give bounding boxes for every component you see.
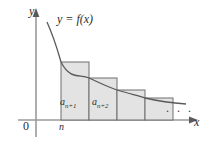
ellipsis-dots: . . . <box>166 101 194 116</box>
bar-label-subscript: n+2 <box>97 102 108 109</box>
bar-label-a-n-plus-2: an+2 <box>92 96 108 109</box>
integral-test-figure: y y = f(x) an+1 an+2 . . . 0 n x <box>0 0 209 152</box>
bar-label-a-n-plus-1: an+1 <box>60 96 76 109</box>
bar-group <box>61 62 173 120</box>
figure-canvas <box>0 0 209 152</box>
y-axis-label: y <box>29 4 34 19</box>
bar-1 <box>61 62 89 120</box>
curve-label: y = f(x) <box>57 12 93 27</box>
x-axis-label: x <box>194 115 199 130</box>
x-tick-label-n: n <box>59 121 64 132</box>
origin-label: 0 <box>23 119 29 134</box>
y-axis <box>33 8 40 137</box>
bar-label-subscript: n+1 <box>65 102 76 109</box>
